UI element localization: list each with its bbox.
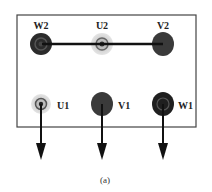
label-v1: V1 xyxy=(118,100,130,111)
label-w2: W2 xyxy=(34,20,49,31)
figure-caption: (a) xyxy=(100,175,110,185)
label-u1: U1 xyxy=(57,100,69,111)
label-v2: V2 xyxy=(157,20,169,31)
terminal-box-diagram: W2 U2 V2 U1 V1 W1 (a) xyxy=(0,0,212,192)
label-u2: U2 xyxy=(96,20,108,31)
label-w1: W1 xyxy=(178,100,193,111)
